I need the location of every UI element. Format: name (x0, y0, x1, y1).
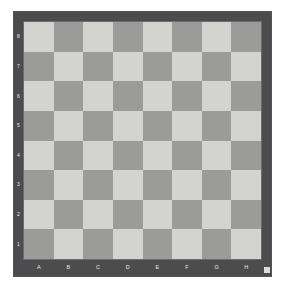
board-square-g6[interactable] (202, 81, 232, 111)
board-square-c8[interactable] (83, 22, 113, 52)
board-square-b5[interactable] (54, 111, 84, 141)
board-square-g7[interactable] (202, 52, 232, 82)
board-square-g8[interactable] (202, 22, 232, 52)
file-label-h: H (231, 259, 261, 277)
board-square-c3[interactable] (83, 170, 113, 200)
file-label-c: C (83, 259, 113, 277)
file-label-b: B (54, 259, 84, 277)
board-square-f6[interactable] (172, 81, 202, 111)
board-square-f7[interactable] (172, 52, 202, 82)
board-square-b2[interactable] (54, 200, 84, 230)
board-square-b7[interactable] (54, 52, 84, 82)
board-square-c2[interactable] (83, 200, 113, 230)
chessboard-figure: 87654321 ABCDEFGH (0, 0, 282, 296)
rank-label-3: 3 (13, 170, 24, 200)
board-square-e6[interactable] (143, 81, 173, 111)
rank-label-4: 4 (13, 141, 24, 171)
board-square-h8[interactable] (231, 22, 261, 52)
board-square-a7[interactable] (24, 52, 54, 82)
board-square-c4[interactable] (83, 141, 113, 171)
board-square-g1[interactable] (202, 229, 232, 259)
board-square-g4[interactable] (202, 141, 232, 171)
board-square-d8[interactable] (113, 22, 143, 52)
board-square-h1[interactable] (231, 229, 261, 259)
board-square-c5[interactable] (83, 111, 113, 141)
board-square-a1[interactable] (24, 229, 54, 259)
board-square-f1[interactable] (172, 229, 202, 259)
board-square-a3[interactable] (24, 170, 54, 200)
board-square-e1[interactable] (143, 229, 173, 259)
rank-label-7: 7 (13, 52, 24, 82)
corner-marker-icon (264, 267, 270, 273)
board-square-h2[interactable] (231, 200, 261, 230)
board-square-d5[interactable] (113, 111, 143, 141)
board-square-g5[interactable] (202, 111, 232, 141)
board-square-h6[interactable] (231, 81, 261, 111)
file-label-f: F (172, 259, 202, 277)
board-square-a2[interactable] (24, 200, 54, 230)
board-square-f5[interactable] (172, 111, 202, 141)
board-square-f8[interactable] (172, 22, 202, 52)
board-square-d1[interactable] (113, 229, 143, 259)
board-square-e2[interactable] (143, 200, 173, 230)
file-label-e: E (143, 259, 173, 277)
board-square-c7[interactable] (83, 52, 113, 82)
rank-label-5: 5 (13, 111, 24, 141)
board-square-h4[interactable] (231, 141, 261, 171)
board-square-d6[interactable] (113, 81, 143, 111)
board-square-h5[interactable] (231, 111, 261, 141)
board-square-f3[interactable] (172, 170, 202, 200)
board-square-a8[interactable] (24, 22, 54, 52)
board-square-e3[interactable] (143, 170, 173, 200)
board-square-c1[interactable] (83, 229, 113, 259)
file-label-a: A (24, 259, 54, 277)
rank-label-2: 2 (13, 200, 24, 230)
rank-label-column: 87654321 (13, 22, 24, 259)
board-square-e4[interactable] (143, 141, 173, 171)
board-square-d4[interactable] (113, 141, 143, 171)
board-square-g2[interactable] (202, 200, 232, 230)
chessboard-grid[interactable] (24, 22, 261, 259)
board-square-b8[interactable] (54, 22, 84, 52)
board-square-h7[interactable] (231, 52, 261, 82)
board-square-e5[interactable] (143, 111, 173, 141)
board-square-h3[interactable] (231, 170, 261, 200)
board-square-a6[interactable] (24, 81, 54, 111)
board-square-d2[interactable] (113, 200, 143, 230)
board-square-b1[interactable] (54, 229, 84, 259)
board-square-d7[interactable] (113, 52, 143, 82)
file-label-d: D (113, 259, 143, 277)
board-square-b6[interactable] (54, 81, 84, 111)
board-square-e7[interactable] (143, 52, 173, 82)
board-square-d3[interactable] (113, 170, 143, 200)
board-square-b4[interactable] (54, 141, 84, 171)
rank-label-1: 1 (13, 229, 24, 259)
board-square-b3[interactable] (54, 170, 84, 200)
rank-label-8: 8 (13, 22, 24, 52)
file-label-row: ABCDEFGH (24, 259, 261, 277)
board-square-c6[interactable] (83, 81, 113, 111)
rank-label-6: 6 (13, 81, 24, 111)
board-square-a4[interactable] (24, 141, 54, 171)
file-label-g: G (202, 259, 232, 277)
board-square-f4[interactable] (172, 141, 202, 171)
board-square-e8[interactable] (143, 22, 173, 52)
board-square-f2[interactable] (172, 200, 202, 230)
board-square-a5[interactable] (24, 111, 54, 141)
chessboard-frame: 87654321 ABCDEFGH (13, 11, 272, 277)
board-square-g3[interactable] (202, 170, 232, 200)
